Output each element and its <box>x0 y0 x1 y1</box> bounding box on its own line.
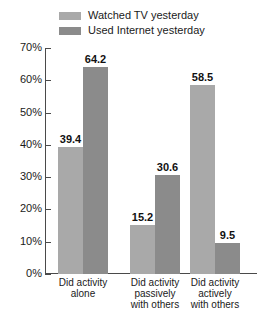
y-tick-label: 0% <box>26 267 42 280</box>
bar-value-label: 64.2 <box>85 53 106 65</box>
category-label-line: with others <box>182 299 248 310</box>
category-label: Did activitypassivelywith others <box>122 277 188 310</box>
bar-group: 15.230.6 <box>130 48 180 274</box>
category-label-line: with others <box>122 299 188 310</box>
bar-chart: Watched TV yesterday Used Internet yeste… <box>0 0 265 319</box>
plot-area: 70%60%50%40%30%20%10%0% 39.464.215.230.6… <box>45 48 257 274</box>
y-tick-label: 70% <box>20 41 42 54</box>
bar: 58.5 <box>190 85 215 274</box>
y-tick-label: 10% <box>20 235 42 248</box>
y-tick: 0% <box>45 274 51 275</box>
legend-label-used-internet: Used Internet yesterday <box>88 25 205 36</box>
bar: 9.5 <box>215 243 240 274</box>
y-tick-label: 20% <box>20 202 42 215</box>
bar: 64.2 <box>83 67 108 274</box>
category-label-line: Did activity <box>182 277 248 288</box>
bar: 39.4 <box>58 147 83 274</box>
legend-item-watched-tv: Watched TV yesterday <box>59 9 259 22</box>
bar-group: 39.464.2 <box>58 48 108 274</box>
bar-group: 58.59.5 <box>190 48 240 274</box>
x-axis-category-labels: Did activityaloneDid activitypassivelywi… <box>45 277 257 319</box>
category-label: Did activityalone <box>50 277 116 299</box>
bar-value-label: 58.5 <box>192 71 213 83</box>
legend-label-watched-tv: Watched TV yesterday <box>88 10 199 21</box>
legend-item-used-internet: Used Internet yesterday <box>59 24 259 37</box>
legend-swatch-used-internet <box>59 27 81 35</box>
category-label: Did activityactivelywith others <box>182 277 248 310</box>
legend-swatch-watched-tv <box>59 12 81 20</box>
bar: 30.6 <box>155 175 180 274</box>
bar-value-label: 15.2 <box>132 211 153 223</box>
y-tick-label: 40% <box>20 138 42 151</box>
bar: 15.2 <box>130 225 155 274</box>
y-tick-label: 30% <box>20 170 42 183</box>
bar-value-label: 9.5 <box>220 229 235 241</box>
category-label-line: passively <box>122 288 188 299</box>
y-tick-mark <box>45 274 51 275</box>
bar-value-label: 30.6 <box>157 161 178 173</box>
y-tick-label: 60% <box>20 73 42 86</box>
category-label-line: Did activity <box>50 277 116 288</box>
chart-legend: Watched TV yesterday Used Internet yeste… <box>59 9 259 39</box>
y-tick-label: 50% <box>20 106 42 119</box>
category-label-line: Did activity <box>122 277 188 288</box>
category-label-line: alone <box>50 288 116 299</box>
category-label-line: actively <box>182 288 248 299</box>
bar-value-label: 39.4 <box>60 133 81 145</box>
bar-groups: 39.464.215.230.658.59.5 <box>45 48 257 274</box>
